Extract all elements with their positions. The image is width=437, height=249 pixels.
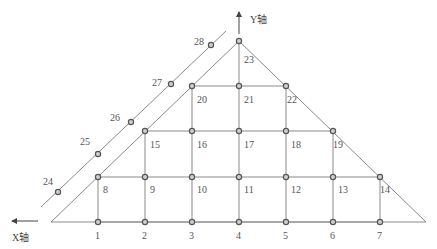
node-label-16: 16 xyxy=(197,139,207,150)
node-label-7: 7 xyxy=(377,230,382,241)
node-20 xyxy=(189,83,194,88)
node-label-15: 15 xyxy=(150,139,160,150)
node-label-6: 6 xyxy=(330,230,335,241)
node-label-10: 10 xyxy=(197,184,207,195)
node-label-4: 4 xyxy=(236,230,241,241)
node-11 xyxy=(236,174,241,179)
node-27 xyxy=(168,81,173,86)
node-label-2: 2 xyxy=(142,230,147,241)
node-25 xyxy=(95,151,100,156)
node-label-9: 9 xyxy=(150,184,155,195)
node-26 xyxy=(128,119,133,124)
node-24 xyxy=(55,189,60,194)
node-8 xyxy=(95,174,100,179)
node-label-1: 1 xyxy=(95,230,100,241)
node-label-18: 18 xyxy=(291,139,301,150)
node-label-27: 27 xyxy=(152,77,162,88)
node-14 xyxy=(377,174,382,179)
node-label-3: 3 xyxy=(189,230,194,241)
node-3 xyxy=(189,219,194,224)
node-23 xyxy=(236,38,241,43)
node-label-25: 25 xyxy=(80,136,90,147)
node-labels: 1234567891011121314151617181920212223242… xyxy=(43,36,390,241)
node-label-17: 17 xyxy=(244,139,254,150)
node-17 xyxy=(236,128,241,133)
node-label-24: 24 xyxy=(43,176,53,187)
node-label-23: 23 xyxy=(244,54,254,65)
node-label-28: 28 xyxy=(194,36,204,47)
node-12 xyxy=(283,174,288,179)
node-2 xyxy=(142,219,147,224)
node-1 xyxy=(95,219,100,224)
node-label-26: 26 xyxy=(110,112,120,123)
node-9 xyxy=(142,174,147,179)
node-19 xyxy=(330,128,335,133)
node-7 xyxy=(377,219,382,224)
outer-parallel-line xyxy=(41,31,226,207)
node-label-5: 5 xyxy=(283,230,288,241)
x-axis-label: X轴 xyxy=(12,231,29,243)
node-label-14: 14 xyxy=(380,184,390,195)
finite-element-mesh-diagram: Y轴 X轴 1234567891011121314151617181920212… xyxy=(0,0,437,249)
node-6 xyxy=(330,219,335,224)
node-5 xyxy=(283,219,288,224)
node-18 xyxy=(283,128,288,133)
node-label-22: 22 xyxy=(287,94,297,105)
node-21 xyxy=(236,83,241,88)
node-22 xyxy=(283,83,288,88)
node-label-21: 21 xyxy=(244,94,254,105)
node-label-13: 13 xyxy=(338,184,348,195)
node-label-20: 20 xyxy=(197,94,207,105)
node-15 xyxy=(142,128,147,133)
y-axis-label: Y轴 xyxy=(250,13,267,25)
node-4 xyxy=(236,219,241,224)
node-label-11: 11 xyxy=(244,184,254,195)
node-13 xyxy=(330,174,335,179)
node-10 xyxy=(189,174,194,179)
node-label-19: 19 xyxy=(333,139,343,150)
node-label-12: 12 xyxy=(291,184,301,195)
node-16 xyxy=(189,128,194,133)
node-28 xyxy=(208,42,213,47)
outer-boundary-line xyxy=(41,31,226,207)
node-label-8: 8 xyxy=(103,184,108,195)
